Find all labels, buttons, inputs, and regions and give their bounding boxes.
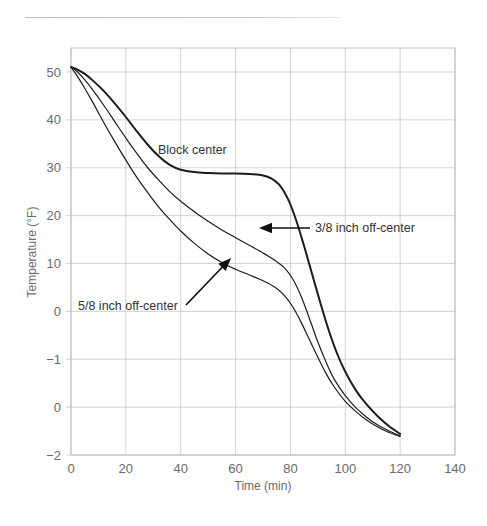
y-tick-label-8: −2 bbox=[46, 448, 61, 463]
y-tick-label-7: 0 bbox=[54, 400, 61, 415]
y-tick-label-0: 50 bbox=[47, 65, 61, 80]
x-tick-label-100: 100 bbox=[334, 461, 356, 476]
y-tick-labels: 50403020100−10−2 bbox=[46, 65, 61, 463]
annotation-leader-five-eighths-off-center bbox=[186, 265, 224, 305]
x-tick-label-0: 0 bbox=[67, 461, 74, 476]
x-axis-title: Time (min) bbox=[235, 479, 292, 493]
grid-horizontal bbox=[66, 72, 455, 455]
annotation-label-block-center: Block center bbox=[158, 143, 227, 157]
y-tick-label-1: 40 bbox=[47, 112, 61, 127]
annotation-arrowhead-three-eighths-off-center bbox=[259, 223, 272, 233]
x-tick-label-120: 120 bbox=[389, 461, 411, 476]
grid-vertical bbox=[71, 48, 455, 455]
x-tick-label-40: 40 bbox=[173, 461, 187, 476]
annotation-label-three-eighths-off-center: 3/8 inch off-center bbox=[315, 221, 415, 235]
temperature-time-chart: 020406080100120140 50403020100−10−2 Time… bbox=[0, 0, 487, 526]
y-tick-label-2: 30 bbox=[47, 160, 61, 175]
annotation-label-five-eighths-off-center: 5/8 inch off-center bbox=[78, 299, 178, 313]
plot-frame bbox=[71, 48, 455, 455]
y-axis-title: Temperature (°F) bbox=[25, 207, 39, 298]
annotations-group: Block center3/8 inch off-center5/8 inch … bbox=[78, 143, 415, 313]
x-tick-label-20: 20 bbox=[119, 461, 133, 476]
figure-container: 020406080100120140 50403020100−10−2 Time… bbox=[0, 0, 487, 526]
x-tick-label-60: 60 bbox=[228, 461, 242, 476]
y-tick-label-5: 0 bbox=[54, 304, 61, 319]
x-tick-labels: 020406080100120140 bbox=[67, 461, 465, 476]
y-tick-label-6: −1 bbox=[46, 352, 61, 367]
x-tick-label-140: 140 bbox=[444, 461, 466, 476]
y-tick-label-3: 20 bbox=[47, 208, 61, 223]
y-tick-label-4: 10 bbox=[47, 256, 61, 271]
x-tick-label-80: 80 bbox=[283, 461, 297, 476]
